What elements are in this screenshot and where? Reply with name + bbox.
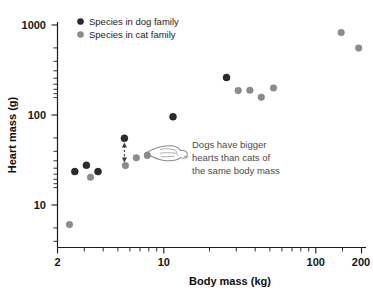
arrow-head-down [122,158,127,163]
legend-marker-dog [77,18,83,24]
annotation-callout: Dogs have bigger hearts than cats of the… [192,139,280,176]
x-tick-marks [58,248,362,254]
data-point [223,74,230,81]
data-point [87,174,94,181]
y-tick-label-1000: 1000 [22,19,46,31]
legend-label-dog: Species in dog family [89,16,179,27]
y-tick-label-10: 10 [34,199,46,211]
data-point [66,221,73,228]
x-tick-label-2: 2 [54,256,60,268]
annotation-line-2: hearts than cats of [192,152,271,163]
axis-group [58,22,367,248]
x-axis-title: Body mass (kg) [189,275,271,287]
x-tick-label-10: 10 [158,256,170,268]
data-point [71,168,78,175]
y-tick-label-100: 100 [28,109,46,121]
y-tick-marks [52,25,58,241]
data-point [121,135,128,142]
arrow-head-up [122,143,127,148]
data-point [83,162,90,169]
x-tick-labels: 2 10 100 200 [54,256,370,268]
legend-marker-cat [77,31,83,37]
y-axis-title: Heart mass (g) [6,96,18,173]
comparison-arrow [122,143,127,163]
annotation-line-1: Dogs have bigger [192,139,266,150]
data-point [133,155,140,162]
data-point [235,87,242,94]
data-point [270,85,277,92]
pointing-hand-icon [146,146,188,161]
data-point [170,113,177,120]
annotation-line-3: the same body mass [192,165,280,176]
scatter-chart: 1000 100 10 [0,0,373,291]
data-point [355,45,362,52]
data-point [247,87,254,94]
data-point [258,94,265,101]
chart-canvas: 1000 100 10 [0,0,373,291]
data-point [338,29,345,36]
data-point [95,168,102,175]
legend-label-cat: Species in cat family [89,29,176,40]
data-point [122,162,129,169]
x-tick-label-200: 200 [352,256,370,268]
x-tick-label-100: 100 [307,256,325,268]
y-tick-labels: 1000 100 10 [22,19,46,211]
series-cat-family [66,29,362,228]
legend: Species in dog family Species in cat fam… [77,16,179,40]
